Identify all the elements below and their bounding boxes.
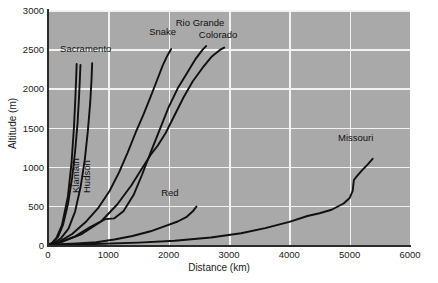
y-axis-title: Altitude (m) bbox=[7, 79, 18, 169]
y-axis-line bbox=[47, 9, 49, 246]
river-profile-chart: 050010001500200025003000 010002000300040… bbox=[0, 0, 438, 283]
series-label-sacramento: Sacramento bbox=[60, 43, 111, 54]
series-label-klamath: Klamath bbox=[70, 158, 81, 193]
y-tick-label: 3000 bbox=[23, 5, 44, 16]
x-tick-label: 5000 bbox=[339, 249, 360, 260]
x-tick-label: 0 bbox=[45, 249, 50, 260]
series-label-colorado: Colorado bbox=[199, 29, 238, 40]
series-line-hudson bbox=[48, 63, 92, 245]
series-label-snake: Snake bbox=[149, 26, 176, 37]
y-tick-label: 2000 bbox=[23, 83, 44, 94]
x-tick-label: 6000 bbox=[399, 249, 420, 260]
series-label-hudson: Hudson bbox=[81, 160, 92, 193]
x-tick-label: 3000 bbox=[218, 249, 239, 260]
series-label-rio-grande: Rio Grande bbox=[176, 17, 225, 28]
x-tick-label: 4000 bbox=[279, 249, 300, 260]
series-label-missouri: Missouri bbox=[338, 132, 373, 143]
y-tick-label: 500 bbox=[28, 200, 44, 211]
y-tick-label: 1000 bbox=[23, 161, 44, 172]
x-axis-title: Distance (km) bbox=[0, 262, 438, 273]
x-tick-label: 1000 bbox=[98, 249, 119, 260]
x-axis-line bbox=[47, 245, 411, 247]
series-label-red: Red bbox=[161, 187, 178, 198]
y-tick-label: 2500 bbox=[23, 44, 44, 55]
y-tick-label: 0 bbox=[39, 240, 44, 251]
series-line-rio-grande bbox=[48, 46, 206, 245]
series-line-missouri bbox=[48, 159, 373, 245]
y-tick-label: 1500 bbox=[23, 122, 44, 133]
x-tick-label: 2000 bbox=[158, 249, 179, 260]
